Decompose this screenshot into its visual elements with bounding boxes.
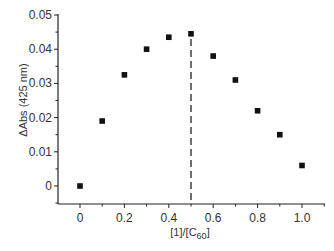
data-point-marker bbox=[144, 46, 150, 52]
x-tick-label: 0 bbox=[77, 211, 84, 225]
x-tick-label: 0.6 bbox=[205, 211, 222, 225]
y-tick-label: 0.05 bbox=[29, 8, 53, 22]
y-tick-label: 0.01 bbox=[29, 145, 53, 159]
x-axis-ticks: 00.20.40.60.81.0 bbox=[77, 204, 325, 225]
data-point-marker bbox=[210, 53, 216, 59]
y-axis-ticks: 00.010.020.030.040.05 bbox=[29, 8, 58, 203]
x-axis-title: [1]/[C60] bbox=[170, 226, 209, 241]
x-tick-label: 0.4 bbox=[160, 211, 177, 225]
y-tick-label: 0.04 bbox=[29, 42, 53, 56]
x-tick-label: 0.8 bbox=[249, 211, 266, 225]
data-point-marker bbox=[188, 31, 194, 37]
job-plot-chart: 00.010.020.030.040.05 00.20.40.60.81.0 Δ… bbox=[0, 0, 334, 251]
data-point-marker bbox=[122, 72, 128, 78]
y-tick-label: 0.02 bbox=[29, 111, 53, 125]
data-point-marker bbox=[233, 77, 239, 83]
data-point-marker bbox=[299, 163, 305, 169]
data-point-marker bbox=[277, 132, 283, 138]
y-axis-title: ΔAbs (425 nm) bbox=[17, 63, 29, 136]
data-point-marker bbox=[166, 34, 172, 40]
data-point-marker bbox=[99, 118, 105, 124]
x-tick-label: 0.2 bbox=[116, 211, 133, 225]
x-tick-label: 1.0 bbox=[294, 211, 311, 225]
y-tick-label: 0.03 bbox=[29, 76, 53, 90]
data-point-marker bbox=[77, 183, 83, 189]
y-tick-label: 0 bbox=[45, 179, 52, 193]
data-point-marker bbox=[255, 108, 261, 114]
